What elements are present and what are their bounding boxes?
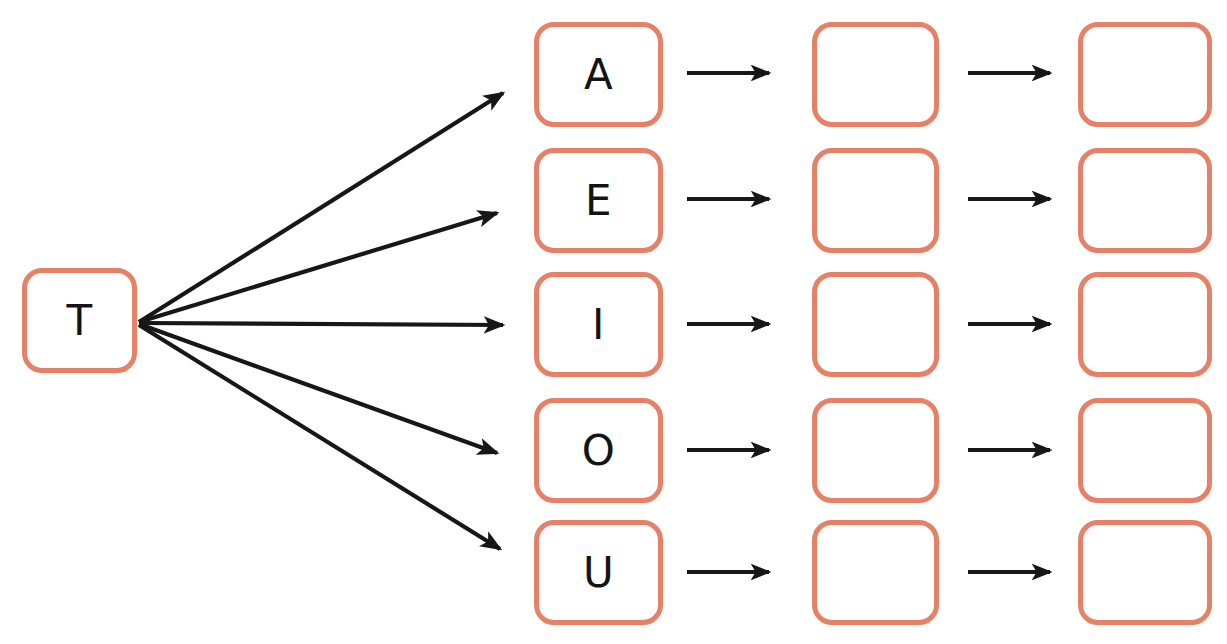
branch-arrow-to-u xyxy=(139,325,500,549)
vowel-box-a[interactable]: A xyxy=(534,22,663,127)
vowel-box-o-label: O xyxy=(582,430,616,472)
blank-box-row5-col2[interactable] xyxy=(812,520,939,625)
vowel-box-u[interactable]: U xyxy=(534,520,663,625)
blank-box-row2-col3[interactable] xyxy=(1078,148,1212,253)
vowel-box-e-label: E xyxy=(585,180,612,222)
blank-box-row4-col3[interactable] xyxy=(1078,398,1212,503)
vowel-box-o[interactable]: O xyxy=(534,398,663,503)
consonant-box-t[interactable]: T xyxy=(22,268,137,373)
branch-arrow-to-a xyxy=(139,93,503,322)
blank-box-row4-col2[interactable] xyxy=(812,398,939,503)
vowel-box-i[interactable]: I xyxy=(534,272,663,377)
branch-arrow-to-e xyxy=(139,213,497,322)
blank-box-row1-col2[interactable] xyxy=(812,22,939,127)
blank-box-row3-col3[interactable] xyxy=(1078,272,1212,377)
vowel-box-u-label: U xyxy=(583,552,614,594)
blank-box-row5-col3[interactable] xyxy=(1078,520,1212,625)
branch-arrow-to-i xyxy=(139,323,503,325)
vowel-box-a-label: A xyxy=(584,54,613,96)
blank-box-row3-col2[interactable] xyxy=(812,272,939,377)
blank-box-row2-col2[interactable] xyxy=(812,148,939,253)
diagram-canvas: T A E I O U xyxy=(0,0,1227,644)
vowel-box-e[interactable]: E xyxy=(534,148,663,253)
branch-arrow-group xyxy=(139,93,503,549)
blank-box-row1-col3[interactable] xyxy=(1078,22,1212,127)
branch-arrow-to-o xyxy=(139,324,497,453)
consonant-box-t-label: T xyxy=(66,300,92,342)
vowel-box-i-label: I xyxy=(592,304,605,346)
